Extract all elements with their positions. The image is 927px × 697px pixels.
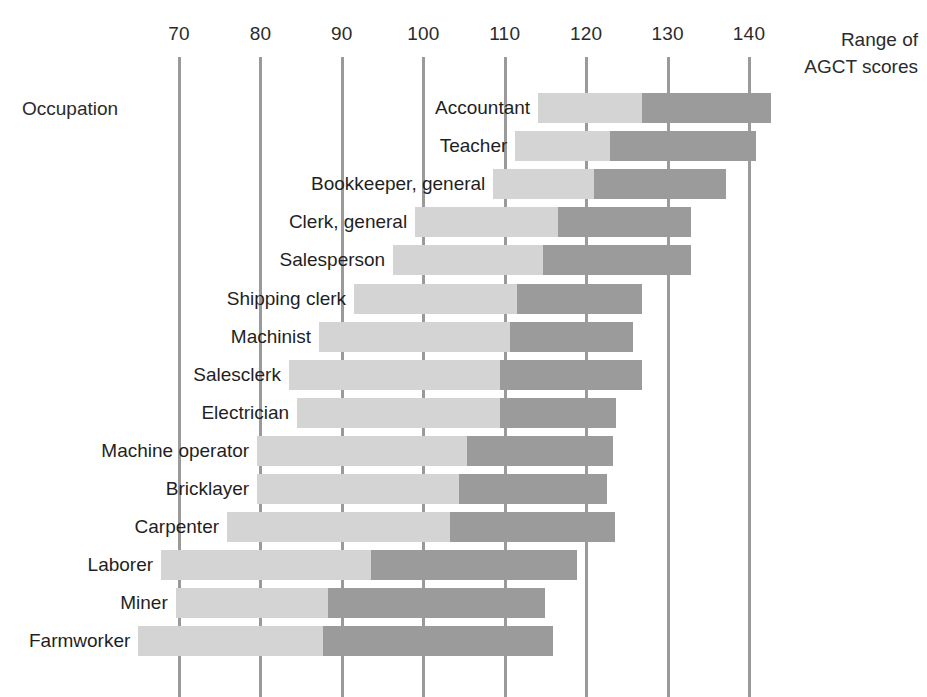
bar-row[interactable]: Teacher [0,131,927,161]
bar-segment-dark[interactable] [371,550,577,580]
x-tick-label-140: 140 [719,23,779,45]
bar-segment-light[interactable] [138,626,323,656]
bar-row-label: Shipping clerk [227,288,346,310]
bar-row[interactable]: Shipping clerk [0,284,927,314]
bar-segment-light[interactable] [354,284,517,314]
bar-row[interactable]: Bookkeeper, general [0,169,927,199]
bar-segment-dark[interactable] [517,284,642,314]
bar-row[interactable]: Carpenter [0,512,927,542]
bar-row[interactable]: Accountant [0,93,927,123]
bar-segment-dark[interactable] [467,436,613,466]
bar-row[interactable]: Miner [0,588,927,618]
bar-row[interactable]: Farmworker [0,626,927,656]
bar-row-label: Electrician [201,402,289,424]
x-tick-label-130: 130 [638,23,698,45]
bar-segment-light[interactable] [415,207,558,237]
bar-segment-light[interactable] [493,169,594,199]
bar-row-label: Machinist [231,326,311,348]
bar-segment-dark[interactable] [500,360,643,390]
bar-row-label: Laborer [88,554,154,576]
x-tick-label-80: 80 [230,23,290,45]
bar-segment-light[interactable] [176,588,328,618]
bar-segment-light[interactable] [227,512,450,542]
bar-segment-dark[interactable] [610,131,757,161]
x-tick-label-120: 120 [556,23,616,45]
bar-row[interactable]: Laborer [0,550,927,580]
bar-row-label: Machine operator [101,440,249,462]
bar-segment-light[interactable] [257,436,467,466]
bar-segment-light[interactable] [257,474,459,504]
bar-segment-dark[interactable] [510,322,633,352]
bar-row[interactable]: Salesperson [0,245,927,275]
bar-row-label: Accountant [435,97,530,119]
bar-row[interactable]: Salesclerk [0,360,927,390]
bar-segment-dark[interactable] [459,474,607,504]
x-axis-title-line1: Range of [841,29,918,50]
bar-segment-light[interactable] [538,93,641,123]
bar-segment-dark[interactable] [594,169,726,199]
bar-row-label: Clerk, general [289,211,407,233]
bar-segment-light[interactable] [515,131,609,161]
x-tick-label-90: 90 [312,23,372,45]
bar-row[interactable]: Machine operator [0,436,927,466]
x-axis-title-line2: AGCT scores [804,56,918,77]
bar-segment-dark[interactable] [328,588,545,618]
bar-row[interactable]: Electrician [0,398,927,428]
bar-row[interactable]: Bricklayer [0,474,927,504]
bar-row-label: Bricklayer [166,478,249,500]
bar-row-label: Bookkeeper, general [311,173,485,195]
bar-row-label: Salesperson [280,249,386,271]
bar-segment-light[interactable] [319,322,510,352]
bar-row-label: Carpenter [135,516,220,538]
x-axis-title: Range ofAGCT scores [804,26,918,80]
bar-segment-dark[interactable] [642,93,771,123]
bar-segment-light[interactable] [289,360,500,390]
bar-row[interactable]: Machinist [0,322,927,352]
bar-row-label: Salesclerk [193,364,281,386]
x-tick-label-110: 110 [475,23,535,45]
bar-row[interactable]: Clerk, general [0,207,927,237]
bar-segment-dark[interactable] [500,398,616,428]
x-tick-label-70: 70 [149,23,209,45]
bar-row-label: Teacher [440,135,508,157]
bar-segment-dark[interactable] [450,512,614,542]
bar-segment-dark[interactable] [323,626,553,656]
bar-row-label: Miner [120,592,168,614]
bar-segment-dark[interactable] [558,207,692,237]
bar-segment-light[interactable] [393,245,543,275]
agct-range-chart: 708090100110120130140 Occupation Range o… [0,0,927,697]
bar-segment-dark[interactable] [543,245,691,275]
bar-segment-light[interactable] [297,398,500,428]
bar-row-label: Farmworker [29,630,130,652]
bar-segment-light[interactable] [161,550,371,580]
x-tick-label-100: 100 [393,23,453,45]
